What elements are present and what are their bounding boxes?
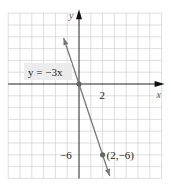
data-point xyxy=(100,152,105,157)
point-label: (2,−6) xyxy=(107,149,135,162)
y-axis-arrow-icon xyxy=(76,9,82,19)
y-axis-label: y xyxy=(68,10,74,21)
x-axis-arrow-icon xyxy=(155,81,165,87)
data-point xyxy=(76,81,81,86)
y-tick-label: −6 xyxy=(60,149,72,161)
line-arrow-icon xyxy=(63,38,68,45)
labels: y = −3x x y 2 −6 (2,−6) xyxy=(24,10,162,162)
equation-label: y = −3x xyxy=(28,66,63,78)
grid xyxy=(8,13,161,178)
x-tick-label: 2 xyxy=(100,89,106,101)
x-axis-label: x xyxy=(156,89,162,100)
chart: y = −3x x y 2 −6 (2,−6) xyxy=(0,0,171,192)
line-arrow-icon xyxy=(105,169,110,176)
